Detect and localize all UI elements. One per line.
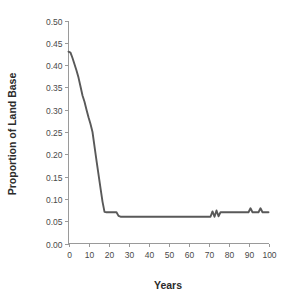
line-chart: 0.000.050.100.150.200.250.300.350.400.45…	[0, 0, 284, 299]
y-tick-label: 0.05	[46, 217, 63, 227]
x-tick-label: 10	[85, 250, 95, 260]
y-tick-label: 0.45	[46, 39, 63, 49]
chart-figure: 0.000.050.100.150.200.250.300.350.400.45…	[0, 0, 284, 299]
y-tick-label: 0.25	[46, 128, 63, 138]
y-axis-title: Proportion of Land Base	[6, 73, 18, 196]
y-tick-label: 0.15	[46, 173, 63, 183]
y-tick-label: 0.35	[46, 83, 63, 93]
y-tick-label: 0.50	[46, 17, 63, 27]
y-tick-label: 0.00	[46, 240, 63, 250]
x-tick-label: 90	[245, 250, 255, 260]
x-tick-label: 70	[205, 250, 215, 260]
y-tick-label: 0.10	[46, 195, 63, 205]
x-tick-label: 30	[125, 250, 135, 260]
x-tick-label: 40	[145, 250, 155, 260]
y-tick-label: 0.20	[46, 150, 63, 160]
x-tick-label: 50	[165, 250, 175, 260]
x-tick-label: 0	[67, 250, 72, 260]
y-tick-label: 0.30	[46, 106, 63, 116]
x-axis-title: Years	[154, 279, 182, 291]
x-tick-label: 100	[262, 250, 276, 260]
y-tick-label: 0.40	[46, 61, 63, 71]
x-tick-label: 20	[105, 250, 115, 260]
chart-background	[0, 0, 284, 299]
x-tick-label: 60	[185, 250, 195, 260]
x-tick-label: 80	[225, 250, 235, 260]
